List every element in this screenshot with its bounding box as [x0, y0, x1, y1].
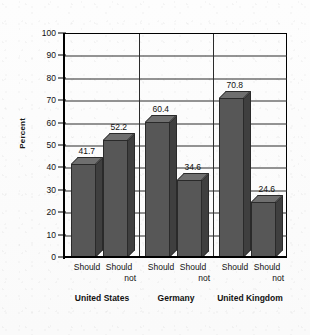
category-label-5: Shouldnot [250, 262, 284, 283]
group-labels: United StatesGermanyUnited Kingdom [65, 293, 287, 309]
category-label-line1: Should [74, 262, 100, 272]
y-tick-60: 60 [32, 118, 56, 128]
category-label-line1: Should [180, 262, 206, 272]
category-labels: ShouldShouldnotShouldShouldnotShouldShou… [65, 262, 287, 288]
bar-value-label: 52.2 [111, 122, 128, 132]
y-tick-0: 0 [32, 252, 56, 262]
category-label-line2: not [102, 273, 136, 284]
group-label-united-states: United States [65, 293, 139, 303]
bar-value-label: 41.7 [79, 146, 96, 156]
bar-side-face [170, 115, 177, 257]
chart-figure: Percent 1009080706050403020100 41.752.26… [0, 0, 310, 335]
y-tick-30: 30 [32, 185, 56, 195]
group-label-united-kingdom: United Kingdom [213, 293, 287, 303]
y-tick-20: 20 [32, 207, 56, 217]
category-label-line1: Should [148, 262, 174, 272]
bar-united-kingdom-should: 70.8 [219, 98, 244, 257]
bar-value-label: 34.6 [185, 162, 202, 172]
gridline-80 [65, 78, 287, 79]
bar-value-label: 60.4 [153, 104, 170, 114]
group-separator-2 [213, 34, 214, 258]
bar-side-face [96, 157, 103, 257]
category-label-2: Should [144, 262, 178, 273]
y-tick-40: 40 [32, 162, 56, 172]
gridline-70 [65, 101, 287, 102]
bar-front-face [219, 98, 244, 257]
bar-front-face [145, 122, 170, 257]
bar-united-states-should: 41.7 [71, 164, 96, 257]
category-label-line2: not [250, 273, 284, 284]
bar-side-face [276, 195, 283, 257]
group-separator-1 [139, 34, 140, 258]
category-label-line1: Should [222, 262, 248, 272]
bar-side-face [128, 133, 135, 257]
bar-value-label: 70.8 [227, 80, 244, 90]
group-label-germany: Germany [139, 293, 213, 303]
category-label-line2: not [176, 273, 210, 284]
bar-front-face [177, 180, 202, 258]
bar-front-face [103, 140, 128, 257]
bar-front-face [251, 202, 276, 257]
y-tick-90: 90 [32, 50, 56, 60]
bar-front-face [71, 164, 96, 257]
y-tick-100: 100 [32, 28, 56, 38]
plot-area: 41.752.260.434.670.824.6 [65, 33, 287, 257]
category-label-1: Shouldnot [102, 262, 136, 283]
bar-side-face [202, 173, 209, 258]
y-axis-label: Percent [18, 118, 32, 149]
y-tick-70: 70 [32, 95, 56, 105]
y-tick-80: 80 [32, 73, 56, 83]
y-tick-50: 50 [32, 140, 56, 150]
bar-side-face [244, 91, 251, 257]
y-axis-tick-labels: 1009080706050403020100 [32, 33, 56, 257]
category-label-line1: Should [254, 262, 280, 272]
bar-united-kingdom-should-not: 24.6 [251, 202, 276, 257]
y-tick-10: 10 [32, 230, 56, 240]
gridline-90 [65, 56, 287, 57]
bar-germany-should: 60.4 [145, 122, 170, 257]
category-label-0: Should [70, 262, 104, 273]
bar-value-label: 24.6 [259, 184, 276, 194]
category-label-4: Should [218, 262, 252, 273]
bar-united-states-should-not: 52.2 [103, 140, 128, 257]
category-label-3: Shouldnot [176, 262, 210, 283]
category-label-line1: Should [106, 262, 132, 272]
bar-germany-should-not: 34.6 [177, 180, 202, 258]
